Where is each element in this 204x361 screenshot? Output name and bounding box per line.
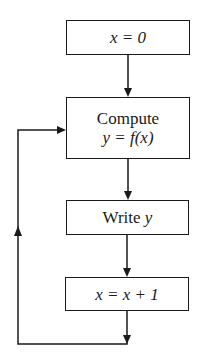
arrowhead-right-icon bbox=[57, 126, 66, 134]
arrowhead-down-icon bbox=[123, 268, 131, 277]
node-write: Write y bbox=[66, 200, 189, 235]
node-label-text: Write bbox=[103, 208, 145, 227]
node-formula: y = f(x) bbox=[102, 128, 153, 147]
node-init: x = 0 bbox=[66, 20, 190, 55]
node-label: x = x + 1 bbox=[95, 285, 159, 304]
arrowhead-down-icon bbox=[124, 88, 132, 97]
node-compute: Compute y = f(x) bbox=[66, 97, 190, 159]
edge-loop-back bbox=[18, 130, 127, 344]
node-label: x = 0 bbox=[110, 28, 146, 47]
node-label-var: y bbox=[145, 208, 153, 227]
arrowhead-down-icon bbox=[123, 335, 131, 344]
arrowhead-down-icon bbox=[124, 191, 132, 200]
node-label: Write y bbox=[103, 208, 153, 227]
node-label: Compute bbox=[97, 109, 159, 128]
arrowhead-up-icon bbox=[14, 226, 22, 236]
node-increment: x = x + 1 bbox=[65, 277, 189, 311]
